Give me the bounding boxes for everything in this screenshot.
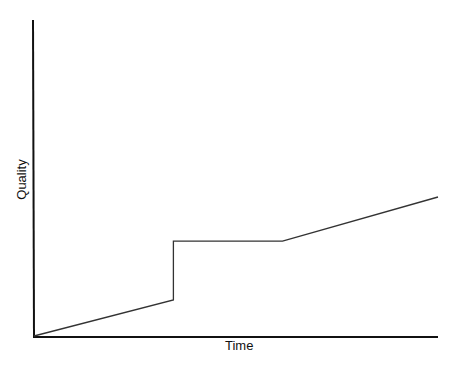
x-axis-label: Time xyxy=(225,338,253,353)
quality-line xyxy=(34,197,438,336)
chart-canvas xyxy=(0,0,458,366)
y-axis xyxy=(33,20,34,337)
y-axis-label: Quality xyxy=(14,155,29,205)
